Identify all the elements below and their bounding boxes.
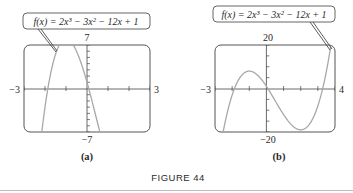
panel-b-function-label: f(x) = 2x³ − 3x² − 12x + 1: [221, 9, 326, 21]
panel-b-ticks: [215, 45, 335, 132]
figure-title: FIGURE 44: [151, 172, 205, 183]
panel-a-ymin-label: −7: [82, 134, 93, 145]
panel-b-frame: [215, 45, 335, 132]
panel-b-ymax-label: 20: [263, 32, 273, 43]
panel-a-caption: (a): [81, 151, 94, 163]
panel-a-ymax-label: 7: [85, 32, 90, 43]
panel-b: 20 −20 −3 4 (b) f(x) = 2x³ − 3x² − 12x +…: [200, 6, 344, 184]
panel-b-xmax-label: 4: [339, 84, 344, 95]
panel-b-caption: (b): [273, 151, 286, 163]
panel-b-ymin-label: −20: [260, 134, 276, 145]
panel-a: 7 −7 −3 3 (a) f(x) = 2x³ − 3x² − 12x + 1: [9, 13, 159, 193]
panel-b-function-callout: f(x) = 2x³ − 3x² − 12x + 1: [213, 6, 335, 50]
panel-a-xmin-label: −3: [9, 84, 20, 95]
panel-a-function-label: f(x) = 2x³ − 3x² − 12x + 1: [33, 16, 138, 28]
panel-b-xmin-label: −3: [200, 84, 211, 95]
panel-a-xmax-label: 3: [154, 84, 159, 95]
figure-canvas: 7 −7 −3 3 (a) f(x) = 2x³ − 3x² − 12x + 1…: [0, 0, 353, 193]
